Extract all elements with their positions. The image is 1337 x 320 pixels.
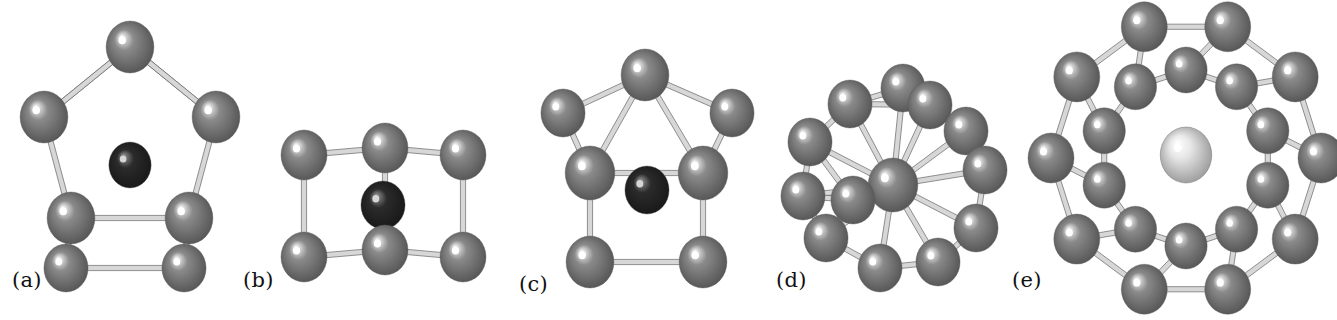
atom-layer [541,49,754,288]
atom-layer [781,64,1007,292]
panel-d-label: (d) [776,268,807,292]
panel-e: (e) [1020,0,1337,320]
atom-layer [1028,2,1337,314]
panel-a-label: (a) [12,268,42,292]
panel-b-label: (b) [243,268,274,292]
panel-b-svg [236,0,496,320]
atom-layer [281,123,486,282]
panel-e-label: (e) [1012,268,1042,292]
molecular-cluster-figure: (a) (b) (c) (d) (e) [0,0,1337,320]
panel-c-label: (c) [519,272,548,296]
panel-b-render [236,0,496,320]
panel-c: (c) [496,0,768,320]
panel-e-svg [1020,0,1337,320]
panel-e-render [1020,0,1337,320]
panel-d: (d) [768,0,1020,320]
panel-a: (a) [0,0,236,320]
panel-b: (b) [236,0,496,320]
